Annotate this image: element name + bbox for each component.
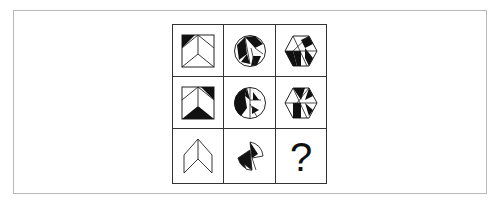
circle-segments-figure (233, 34, 267, 68)
square-chevron-figure (181, 86, 215, 120)
cell-r1-c3 (276, 25, 326, 77)
cell-r3-c1 (173, 129, 224, 183)
question-mark: ? (290, 137, 312, 177)
cell-r1-c2 (224, 25, 276, 77)
cell-r2-c1 (173, 77, 224, 129)
square-chevron-figure (181, 34, 215, 68)
hexagon-segments-figure (283, 34, 319, 68)
cell-r2-c2 (224, 77, 276, 129)
cell-r3-c3-missing: ? (276, 129, 326, 183)
cell-r2-c3 (276, 77, 326, 129)
puzzle-grid: ? (172, 24, 327, 184)
circle-fragments-figure (230, 136, 270, 176)
chevron-outline-figure (181, 137, 215, 175)
cell-r3-c2 (224, 129, 276, 183)
cell-r1-c1 (173, 25, 224, 77)
circle-segments-figure (233, 86, 267, 120)
hexagon-segments-figure (283, 86, 319, 120)
